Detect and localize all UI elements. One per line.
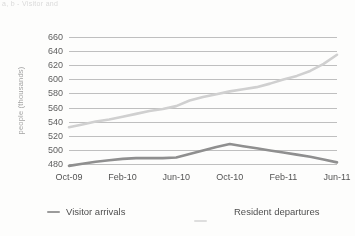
y-axis-tick-label: 640	[48, 46, 63, 56]
series-line	[69, 55, 337, 127]
y-axis-tick-label: 500	[48, 145, 63, 155]
series-lines	[69, 33, 337, 168]
cropped-header-text: a, b - Visitor and	[2, 0, 122, 8]
y-axis-title: people (thousands)	[16, 53, 25, 149]
y-axis-tick-label: 620	[48, 60, 63, 70]
x-axis-tick-label: Feb-11	[269, 172, 297, 182]
chart-legend: Visitor arrivals Resident departures	[0, 200, 355, 230]
series-line	[69, 144, 337, 166]
legend-swatch-icon	[194, 220, 207, 222]
chart-canvas: a, b - Visitor and people (thousands) 66…	[0, 0, 355, 236]
y-axis-tick-label: 540	[48, 117, 63, 127]
legend-label: Resident departures	[234, 206, 320, 217]
x-axis-tick-label: Oct-09	[55, 172, 82, 182]
y-axis-tick-label: 600	[48, 74, 63, 84]
y-axis-tick-label: 480	[48, 159, 63, 169]
y-axis-tick-label: 660	[48, 32, 63, 42]
plot-area: 660640620600580560540520500480 Oct-09Feb…	[69, 33, 337, 168]
x-axis-tick-label: Oct-10	[216, 172, 243, 182]
legend-item-resident-departures[interactable]: Resident departures	[234, 206, 320, 217]
y-axis-tick-label: 520	[48, 131, 63, 141]
x-axis-tick-label: Jun-11	[324, 172, 351, 182]
y-axis-tick-label: 560	[48, 103, 63, 113]
x-axis-tick-label: Jun-10	[162, 172, 190, 182]
legend-label: Visitor arrivals	[66, 206, 125, 217]
legend-swatch-icon	[47, 211, 60, 213]
legend-item-visitor-arrivals[interactable]: Visitor arrivals	[66, 206, 125, 217]
y-axis-tick-label: 580	[48, 88, 63, 98]
x-axis-tick-label: Feb-10	[108, 172, 137, 182]
